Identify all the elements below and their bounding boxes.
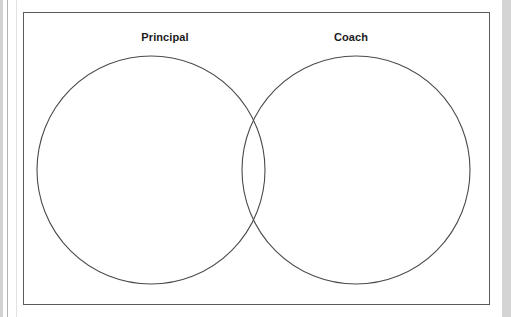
page-gutter-line xyxy=(7,0,8,317)
scan-right-edge xyxy=(502,0,511,317)
venn-label-left: Principal xyxy=(141,31,188,43)
venn-label-right: Coach xyxy=(334,31,368,43)
scan-page: Principal Coach xyxy=(0,0,511,317)
scan-left-edge xyxy=(0,0,3,317)
page-gutter-line-secondary xyxy=(16,0,17,317)
worksheet-frame xyxy=(23,12,490,305)
